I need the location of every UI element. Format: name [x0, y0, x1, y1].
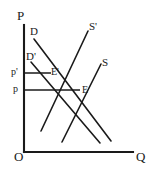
- quantity-axis-label: Q: [136, 150, 145, 163]
- supply-shifted-curve-label: S': [89, 21, 97, 32]
- supply-curve-label: S: [102, 57, 108, 68]
- demand-curve-label: D: [30, 26, 38, 37]
- supply-demand-figure: P Q O D D' S' S E' E p' p: [0, 0, 153, 172]
- equilibrium-shifted-label: E': [51, 67, 59, 77]
- equilibrium-label: E: [82, 85, 88, 95]
- axes-group: [24, 25, 133, 152]
- origin-label: O: [14, 150, 23, 163]
- price-axis-label: P: [17, 9, 24, 22]
- price-label: p: [13, 84, 18, 94]
- price-shifted-label: p': [11, 67, 18, 77]
- curves-group: [31, 31, 111, 143]
- demand-shifted-curve-label: D': [26, 51, 36, 62]
- diagram-canvas: [0, 0, 153, 172]
